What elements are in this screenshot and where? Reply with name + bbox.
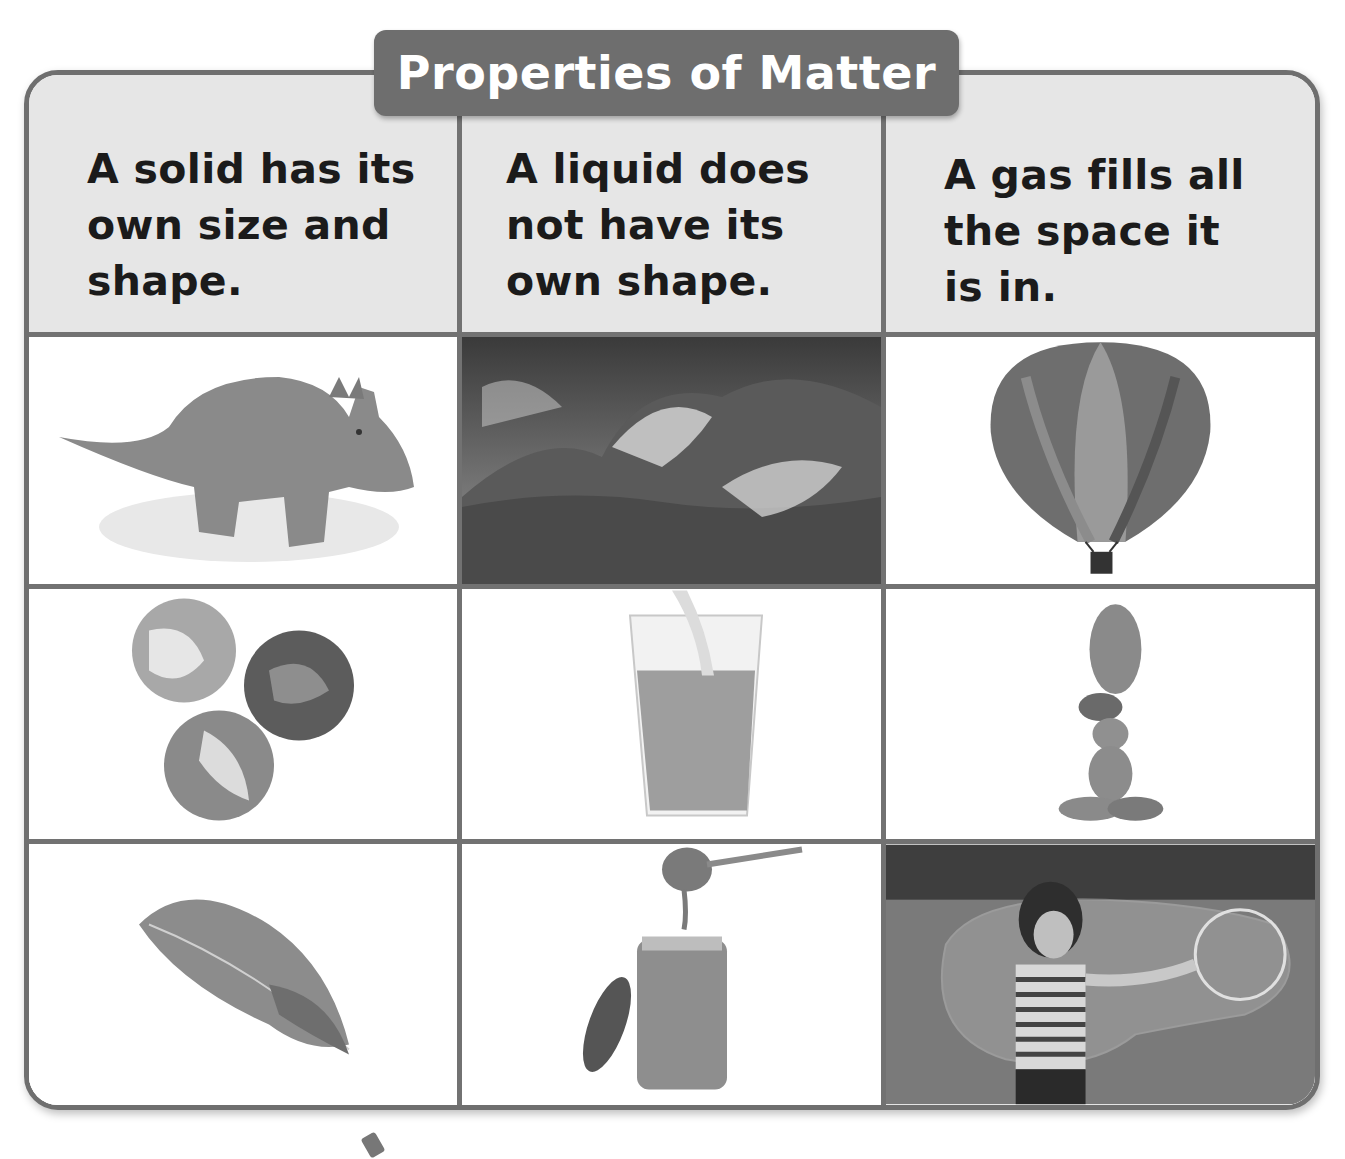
cell-liquid-3 xyxy=(462,844,886,1105)
page-title: Properties of Matter xyxy=(397,46,936,100)
ocean-wave-image xyxy=(462,337,881,584)
header-gas-text: A gas fills all the space it is in. xyxy=(944,147,1315,315)
cell-liquid-1 xyxy=(462,337,886,589)
giant-bubble-image xyxy=(886,844,1315,1105)
cell-solid-2 xyxy=(29,589,462,844)
page-title-tab: Properties of Matter xyxy=(374,30,959,116)
cell-solid-3 xyxy=(29,844,462,1105)
balloon-animal-image xyxy=(886,589,1315,839)
marbles-image xyxy=(29,589,457,839)
cell-gas-3 xyxy=(886,844,1315,1105)
cell-gas-1 xyxy=(886,337,1315,589)
cell-gas-2 xyxy=(886,589,1315,844)
properties-table: A solid has its own size and shape. A li… xyxy=(24,70,1320,1110)
toy-dinosaur-image xyxy=(29,337,457,584)
pencil-icon xyxy=(361,1131,386,1158)
header-solid-text: A solid has its own size and shape. xyxy=(87,141,457,309)
juice-glass-image xyxy=(462,589,881,839)
cell-solid-1 xyxy=(29,337,462,589)
header-liquid-text: A liquid does not have its own shape. xyxy=(506,141,881,309)
cell-liquid-2 xyxy=(462,589,886,844)
honey-jar-image xyxy=(462,844,881,1105)
feather-image xyxy=(29,844,457,1105)
hot-air-balloon-image xyxy=(886,337,1315,584)
